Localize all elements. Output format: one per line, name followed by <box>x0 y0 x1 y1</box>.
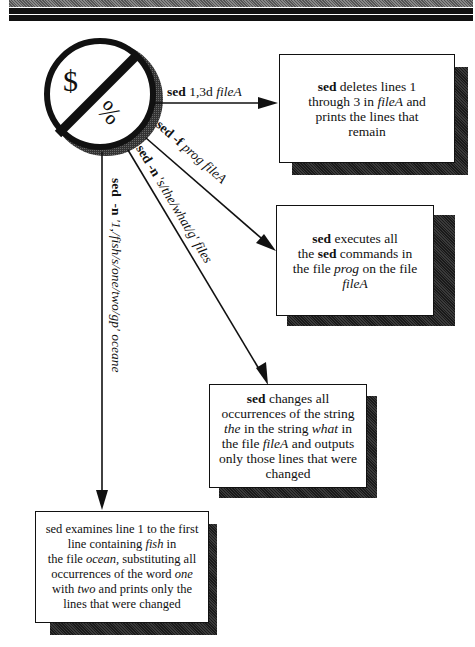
dollar-sign: $ <box>63 64 78 98</box>
box-text-line: the sed commands in <box>277 246 433 261</box>
arrow-substitute <box>128 150 268 385</box>
box-text-line: sed executes all <box>277 231 433 246</box>
box-text-line: with two and prints only the <box>36 582 208 597</box>
arrow-range-substitute <box>96 152 108 510</box>
box-text-line: only those lines that were <box>210 451 366 466</box>
no-dollar-symbol-icon <box>47 41 163 156</box>
result-box-substitute: sed changes alloccurrences of the string… <box>209 384 367 488</box>
box-text-line: prints the lines that <box>280 109 454 124</box>
box-text-line: remain <box>280 124 454 139</box>
result-box-prog: sed executes allthe sed commands inthe f… <box>276 205 434 316</box>
box-text-line: changed <box>210 466 366 481</box>
box-text-line: the file prog on the file <box>277 261 433 276</box>
box-text-line: lines that were changed <box>36 597 208 612</box>
box-text-line: line containing fish in <box>36 537 208 552</box>
box-text-line: fileA <box>277 276 433 291</box>
box-text-line: the file ocean, substituting all <box>36 552 208 567</box>
box-text-line: sed examines line 1 to the first <box>36 522 208 537</box>
result-box-range-substitute: sed examines line 1 to the firstline con… <box>35 511 209 623</box>
result-box-delete: sed deletes lines 1through 3 in fileA an… <box>279 54 455 163</box>
box-text-line: through 3 in fileA and <box>280 94 454 109</box>
box-text-line: sed deletes lines 1 <box>280 79 454 94</box>
arrow-label-range-substitute: sed -n '1,/fish/s/one/two/gp' oceane <box>108 178 124 372</box>
box-text-line: the in the string what in <box>210 421 366 436</box>
arrow-label-delete: sed 1,3d fileA <box>167 84 242 100</box>
box-text-line: occurrences of the string <box>210 406 366 421</box>
box-text-line: occurrences of the word one <box>36 567 208 582</box>
box-text-line: sed changes all <box>210 391 366 406</box>
box-text-line: the file fileA and outputs <box>210 436 366 451</box>
